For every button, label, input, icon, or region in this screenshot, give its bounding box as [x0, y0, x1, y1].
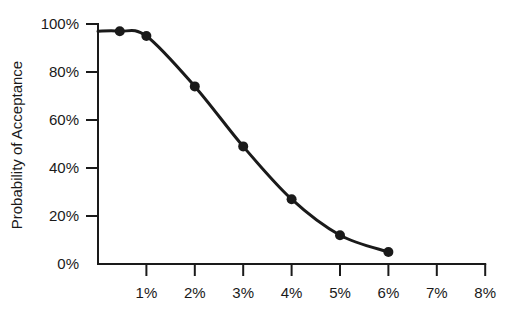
axes [97, 23, 486, 265]
y-tick-label: 40% [49, 159, 79, 176]
data-markers [115, 26, 394, 257]
y-tick-label: 0% [57, 255, 79, 272]
x-tick-label: 4% [281, 284, 303, 301]
data-point [115, 26, 125, 36]
data-point [141, 31, 151, 41]
x-tick-label: 1% [136, 284, 158, 301]
x-tick-label: 2% [184, 284, 206, 301]
data-line [98, 30, 388, 252]
x-tick-label: 7% [426, 284, 448, 301]
chart: 0%20%40%60%80%100% 1%2%3%4%5%6%7%8% Prob… [0, 0, 527, 327]
y-axis-ticks: 0%20%40%60%80%100% [41, 15, 98, 272]
x-tick-label: 3% [232, 284, 254, 301]
y-tick-label: 60% [49, 111, 79, 128]
y-tick-label: 20% [49, 207, 79, 224]
x-axis-ticks: 1%2%3%4%5%6%7%8% [136, 264, 496, 301]
x-tick-label: 8% [474, 284, 496, 301]
x-tick-label: 6% [378, 284, 400, 301]
data-point [335, 230, 345, 240]
data-point [287, 194, 297, 204]
y-axis-label: Probability of Acceptance [8, 61, 25, 229]
data-point [190, 81, 200, 91]
x-tick-label: 5% [329, 284, 351, 301]
y-tick-label: 80% [49, 63, 79, 80]
y-tick-label: 100% [41, 15, 79, 32]
data-point [383, 247, 393, 257]
data-point [238, 141, 248, 151]
